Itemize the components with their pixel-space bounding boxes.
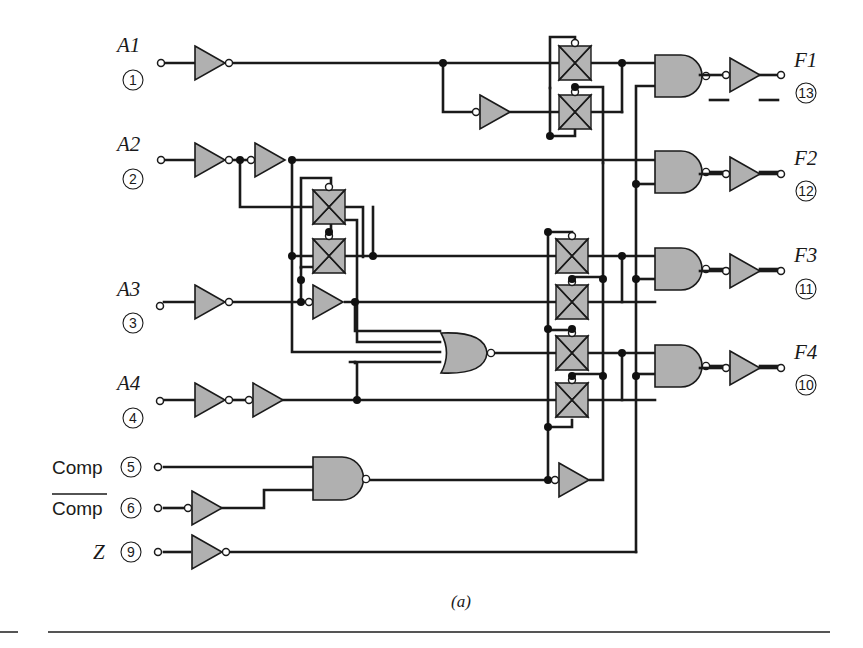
input-terminal-a1[interactable]: [158, 60, 165, 67]
inverter-a3: [195, 285, 233, 319]
input-a4: A4 4: [115, 371, 164, 428]
inverter-a3-second: [306, 285, 344, 319]
pin-number-2: 2: [129, 171, 137, 187]
input-label-z: Z: [93, 540, 105, 564]
logic-schematic: A1 1 A2 2 A3 3 A4 4 Comp 5 Comp 6 Z 9: [0, 0, 863, 648]
output-label-f3: F3: [793, 243, 817, 267]
output-buffer-f3: [723, 254, 761, 288]
inverter-a1-branch: [473, 95, 511, 129]
buffer-a2: [248, 143, 286, 177]
wires: [164, 37, 778, 552]
inverter-comp-bar: [185, 491, 223, 525]
output-terminal-f2[interactable]: [778, 171, 785, 178]
output-buffer-f2: [723, 157, 761, 191]
pin-number-3: 3: [129, 315, 137, 331]
output-label-f1: F1: [793, 48, 817, 72]
output-f1: F1 13: [778, 48, 818, 103]
output-wires: [700, 75, 778, 368]
output-f3: F3 11: [778, 243, 818, 299]
nor-gate: [441, 333, 495, 373]
inverter-a4: [195, 383, 233, 417]
input-label-a3: A3: [115, 277, 140, 301]
input-terminal-a2[interactable]: [158, 157, 165, 164]
pin-number-12: 12: [798, 183, 814, 199]
input-comp-bar: Comp 6: [52, 494, 162, 519]
pin-number-1: 1: [129, 72, 137, 88]
pin-number-13: 13: [798, 85, 814, 101]
output-buffer-f4: [723, 351, 761, 385]
input-label-a2: A2: [115, 132, 141, 156]
input-label-a1: A1: [115, 33, 140, 57]
pin-number-10: 10: [798, 377, 814, 393]
output-nand-f3: [655, 248, 710, 290]
input-a1: A1 1: [115, 33, 165, 90]
input-comp: Comp 5: [52, 457, 162, 478]
input-terminal-a3[interactable]: [157, 303, 164, 310]
input-terminal-comp-bar[interactable]: [155, 505, 162, 512]
comp-nand-gate: [313, 457, 370, 500]
pin-number-9: 9: [127, 544, 135, 560]
input-terminal-a4[interactable]: [157, 398, 164, 405]
input-label-comp-bar: Comp: [52, 498, 103, 519]
pin-number-6: 6: [127, 500, 135, 516]
inverter-z: [192, 535, 230, 569]
output-terminal-f4[interactable]: [778, 365, 785, 372]
output-label-f2: F2: [793, 146, 818, 170]
input-label-a4: A4: [115, 371, 141, 395]
buffer-a4: [246, 383, 284, 417]
output-f4: F4 10: [778, 340, 818, 395]
pin-number-5: 5: [127, 459, 135, 475]
output-f2: F2 12: [778, 146, 818, 201]
output-label-f4: F4: [793, 340, 818, 364]
inverter-enable: [552, 463, 590, 497]
output-terminal-f1[interactable]: [778, 72, 785, 79]
pin-number-11: 11: [799, 281, 814, 297]
input-terminal-comp[interactable]: [155, 464, 162, 471]
input-z: Z 9: [93, 540, 162, 564]
input-label-comp: Comp: [52, 457, 103, 478]
output-terminal-f3[interactable]: [778, 268, 785, 275]
figure-caption: (a): [451, 592, 471, 611]
input-a3: A3 3: [115, 277, 164, 333]
input-terminal-z[interactable]: [155, 549, 162, 556]
output-buffer-f1: [723, 58, 761, 92]
inverter-a1: [195, 46, 233, 80]
input-a2: A2 2: [115, 132, 165, 189]
output-nand-f2: [655, 151, 710, 193]
pin-number-4: 4: [129, 410, 137, 426]
inverter-a2: [195, 143, 233, 177]
output-nand-f4: [655, 345, 710, 387]
